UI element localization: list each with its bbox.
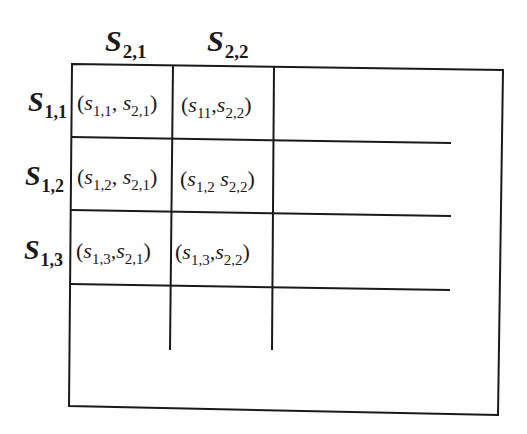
- row-header-s13: S1,3: [24, 236, 63, 269]
- column-header-s22: S2,2: [207, 26, 248, 61]
- col-divider-1: [170, 65, 173, 350]
- row-divider-3: [70, 284, 450, 290]
- cell-r1-c1: (s1,1, s2,1): [77, 92, 157, 119]
- cell-r3-c1: (s1,3,s2,1): [76, 240, 151, 267]
- row-header-s12: S1,2: [25, 162, 64, 195]
- row-divider-2: [71, 210, 451, 216]
- row-header-s11: S1,1: [28, 88, 67, 121]
- cell-r2-c2: (s1,2 s2,2): [180, 168, 255, 195]
- cell-r2-c1: (s1,2, s2,1): [77, 166, 157, 193]
- col-divider-2: [272, 67, 274, 350]
- row-divider-1: [71, 137, 451, 143]
- cell-r3-c2: (s1,3,s2,2): [175, 241, 250, 268]
- matrix-grid: [0, 0, 527, 434]
- column-header-s21: S2,1: [105, 26, 146, 61]
- cell-r1-c2: (s11,s2,2): [181, 94, 251, 121]
